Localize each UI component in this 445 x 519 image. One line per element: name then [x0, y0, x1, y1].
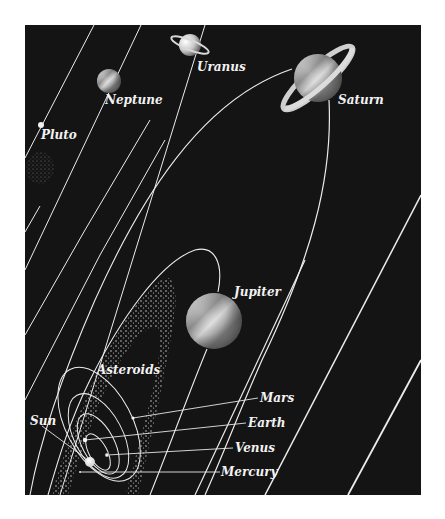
neptune-icon	[97, 69, 121, 93]
label-uranus: Uranus	[197, 60, 246, 74]
label-neptune: Neptune	[104, 93, 163, 107]
mars-icon	[131, 416, 134, 419]
mercury-icon	[79, 471, 81, 473]
label-venus: Venus	[235, 441, 275, 455]
label-sun: Sun	[30, 414, 56, 428]
solar-system-diagram: Uranus Neptune Saturn Pluto Jupiter Aste…	[0, 0, 445, 519]
label-earth: Earth	[247, 416, 286, 430]
label-pluto: Pluto	[40, 128, 77, 142]
jupiter-icon	[186, 293, 242, 349]
label-mars: Mars	[259, 391, 294, 405]
label-jupiter: Jupiter	[232, 285, 283, 299]
label-asteroids: Asteroids	[96, 363, 161, 377]
venus-icon	[105, 453, 109, 457]
earth-icon	[83, 438, 87, 442]
kuiper-dust	[26, 152, 54, 184]
label-saturn: Saturn	[338, 93, 384, 107]
sun-icon	[85, 457, 95, 467]
label-mercury: Mercury	[220, 465, 279, 479]
